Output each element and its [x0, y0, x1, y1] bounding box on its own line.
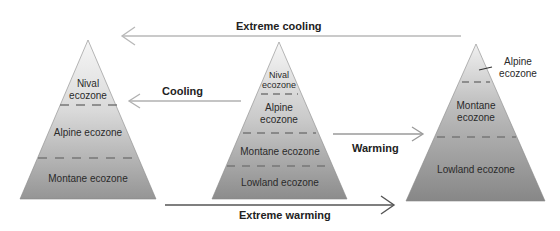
zone-text: Nival: [60, 78, 116, 90]
extreme-warming-label: Extreme warming: [239, 209, 331, 221]
zone-text: ecozone: [448, 112, 504, 124]
zone-text: ecozone: [493, 68, 543, 80]
center-lowland-label: Lowland ecozone: [230, 177, 330, 189]
warming-label: Warming: [352, 142, 399, 154]
zone-text: Alpine: [254, 102, 304, 114]
center-montane-label: Montane ecozone: [230, 146, 330, 158]
right-montane-label: Montane ecozone: [448, 100, 504, 124]
zone-text: Alpine: [493, 56, 543, 68]
right-alpine-label: Alpine ecozone: [493, 56, 543, 80]
left-nival-label: Nival ecozone: [60, 78, 116, 102]
zone-text: ecozone: [254, 114, 304, 126]
center-alpine-label: Alpine ecozone: [254, 102, 304, 126]
zone-text: ecozone: [60, 90, 116, 102]
zone-text: ecozone: [258, 80, 300, 90]
left-montane-label: Montane ecozone: [28, 173, 148, 185]
center-nival-label: Nival ecozone: [258, 70, 300, 90]
extreme-cooling-label: Extreme cooling: [236, 20, 322, 32]
left-alpine-label: Alpine ecozone: [38, 127, 138, 139]
zone-text: Montane: [448, 100, 504, 112]
right-lowland-label: Lowland ecozone: [426, 164, 526, 176]
cooling-label: Cooling: [162, 85, 203, 97]
warming-arrow: [333, 127, 423, 141]
zone-text: Nival: [258, 70, 300, 80]
